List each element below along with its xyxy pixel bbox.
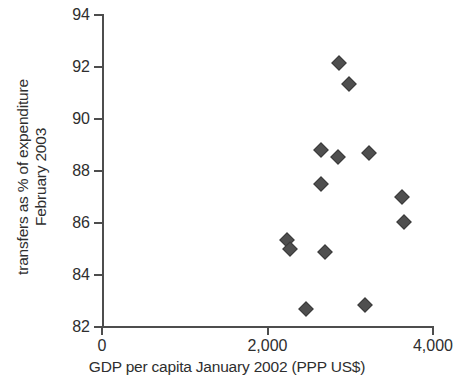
y-axis-tick-label: 90	[58, 111, 90, 127]
data-point-marker	[282, 241, 298, 257]
y-axis-tick	[94, 274, 103, 276]
y-axis-label-line-1: transfers as % of expenditure	[14, 79, 32, 275]
x-axis-tick	[101, 326, 103, 335]
data-point-marker	[330, 149, 346, 165]
x-axis-tick-label: 2,000	[223, 338, 313, 354]
x-axis-tick	[267, 326, 269, 335]
y-axis-tick	[94, 222, 103, 224]
y-axis-tick	[94, 66, 103, 68]
y-axis-tick-label: 86	[58, 215, 90, 231]
data-point-marker	[362, 145, 378, 161]
scatter-chart: transfers as % of expenditure February 2…	[0, 0, 454, 386]
data-point-marker	[394, 189, 410, 205]
y-axis-tick	[94, 14, 103, 16]
data-point-marker	[314, 176, 330, 192]
y-axis-tick-label: 82	[58, 319, 90, 335]
y-axis-tick-label: 94	[58, 7, 90, 23]
x-axis-tick-label: 0	[57, 338, 147, 354]
y-axis-tick-label: 84	[58, 267, 90, 283]
y-axis-tick	[94, 170, 103, 172]
x-axis-tick	[432, 326, 434, 335]
x-axis-tick-label: 4,000	[388, 338, 454, 354]
data-point-marker	[299, 301, 315, 317]
y-axis-tick-label: 92	[58, 59, 90, 75]
x-axis-label: GDP per capita January 2002 (PPP US$)	[0, 358, 454, 376]
data-point-marker	[331, 55, 347, 71]
data-point-marker	[342, 76, 358, 92]
data-point-marker	[317, 244, 333, 260]
data-point-marker	[357, 297, 373, 313]
data-point-marker	[314, 142, 330, 158]
y-axis-tick-label: 88	[58, 163, 90, 179]
y-axis-tick	[94, 118, 103, 120]
y-axis-label: transfers as % of expenditure February 2…	[0, 0, 62, 340]
data-point-marker	[396, 214, 412, 230]
data-point-marker	[280, 232, 296, 248]
y-axis-label-line-2: February 2003	[32, 128, 50, 226]
